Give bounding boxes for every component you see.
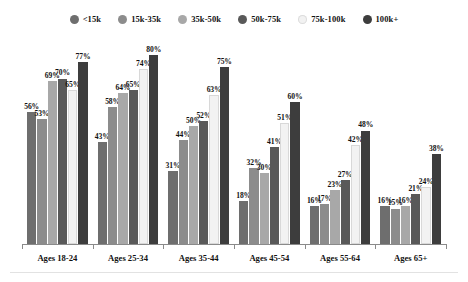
bar[interactable] <box>37 119 46 244</box>
bar[interactable] <box>179 140 188 244</box>
bar-slot: 50% <box>189 36 198 244</box>
legend-dot-icon <box>70 15 79 24</box>
plot-area: 56%53%69%70%65%77%43%58%64%65%74%80%31%4… <box>22 36 446 244</box>
bar-slot: 58% <box>108 36 117 244</box>
bar[interactable] <box>341 180 350 244</box>
legend-dot-icon <box>178 15 187 24</box>
bar[interactable] <box>168 171 177 244</box>
bar-value-label: 80% <box>146 46 161 54</box>
bar[interactable] <box>249 168 258 244</box>
bar[interactable] <box>391 209 400 244</box>
bar[interactable] <box>239 201 248 244</box>
axis-tick <box>446 244 447 249</box>
bar[interactable] <box>78 62 87 244</box>
legend-entry[interactable]: 35k-50k <box>178 15 221 24</box>
bar-slot: 18% <box>239 36 248 244</box>
bar-slot: 31% <box>168 36 177 244</box>
axis-tick <box>375 244 376 249</box>
bar-value-label: 38% <box>429 145 444 153</box>
axis-category-label: Ages 18-24 <box>22 250 93 266</box>
bar-slot: 69% <box>48 36 57 244</box>
bar[interactable] <box>129 90 138 244</box>
bar[interactable] <box>149 55 158 244</box>
bar-slot: 52% <box>199 36 208 244</box>
bar-group: 16%17%23%27%42%48% <box>305 36 376 244</box>
legend-label: <15k <box>83 15 101 24</box>
bar-slot: 63% <box>209 36 218 244</box>
bar[interactable] <box>280 123 289 244</box>
bar[interactable] <box>68 90 77 244</box>
bar[interactable] <box>108 107 117 244</box>
axis-tick <box>305 244 306 249</box>
axis-category-label: Ages 65+ <box>375 250 446 266</box>
bar-slot: 44% <box>179 36 188 244</box>
legend-label: 75k-100k <box>311 15 345 24</box>
axis-category-label: Ages 45-54 <box>234 250 305 266</box>
axis-category-label: Ages 35-44 <box>163 250 234 266</box>
bar-slot: 21% <box>411 36 420 244</box>
bar[interactable] <box>118 93 127 244</box>
legend-label: 50k-75k <box>251 15 281 24</box>
bar[interactable] <box>48 81 57 244</box>
legend-label: 35k-50k <box>191 15 221 24</box>
legend-entry[interactable]: <15k <box>70 15 101 24</box>
bar-groups: 56%53%69%70%65%77%43%58%64%65%74%80%31%4… <box>22 36 446 244</box>
bar[interactable] <box>290 102 299 244</box>
bar[interactable] <box>139 69 148 244</box>
bar[interactable] <box>361 131 370 244</box>
bar[interactable] <box>432 154 441 244</box>
bar[interactable] <box>27 112 36 244</box>
bar-slot: 77% <box>78 36 87 244</box>
bar[interactable] <box>320 204 329 244</box>
axis-category-label: Ages 55-64 <box>305 250 376 266</box>
bar[interactable] <box>330 190 339 244</box>
bar-slot: 80% <box>149 36 158 244</box>
bar[interactable] <box>189 126 198 244</box>
bar[interactable] <box>351 145 360 244</box>
bar-slot: 16% <box>380 36 389 244</box>
legend-entry[interactable]: 100k+ <box>363 15 399 24</box>
bar-value-label: 60% <box>288 93 303 101</box>
bar-slot: 16% <box>401 36 410 244</box>
legend-dot-icon <box>118 15 127 24</box>
bar[interactable] <box>220 67 229 244</box>
bar-slot: 48% <box>361 36 370 244</box>
bar[interactable] <box>98 142 107 244</box>
bar-slot: 42% <box>351 36 360 244</box>
legend-label: 15k-35k <box>131 15 161 24</box>
bar-slot: 16% <box>310 36 319 244</box>
bar-value-label: 48% <box>358 121 373 129</box>
bar-slot: 56% <box>27 36 36 244</box>
bar-group: 18%32%30%41%51%60% <box>234 36 305 244</box>
footer-divider <box>10 272 458 273</box>
bar-group: 43%58%64%65%74%80% <box>93 36 164 244</box>
bar-slot: 70% <box>58 36 67 244</box>
bar-slot: 53% <box>37 36 46 244</box>
axis-category-label: Ages 25-34 <box>93 250 164 266</box>
legend-entry[interactable]: 75k-100k <box>298 15 345 24</box>
legend-label: 100k+ <box>376 15 399 24</box>
grouped-bar-chart: <15k15k-35k35k-50k50k-75k75k-100k100k+ 5… <box>0 0 468 282</box>
bar-slot: 17% <box>320 36 329 244</box>
bar-slot: 75% <box>220 36 229 244</box>
bar[interactable] <box>58 79 67 244</box>
bar[interactable] <box>310 206 319 244</box>
bar-slot: 23% <box>330 36 339 244</box>
bar[interactable] <box>270 147 279 244</box>
bar-group: 31%44%50%52%63%75% <box>163 36 234 244</box>
bar-slot: 15% <box>391 36 400 244</box>
chart-legend: <15k15k-35k35k-50k50k-75k75k-100k100k+ <box>0 8 468 30</box>
bar[interactable] <box>260 173 269 244</box>
bar-slot: 32% <box>249 36 258 244</box>
legend-entry[interactable]: 50k-75k <box>238 15 281 24</box>
bar[interactable] <box>380 206 389 244</box>
axis-tick <box>163 244 164 249</box>
bar[interactable] <box>421 187 430 244</box>
bar[interactable] <box>199 121 208 244</box>
legend-dot-icon <box>363 15 372 24</box>
bar[interactable] <box>209 95 218 244</box>
bar[interactable] <box>401 206 410 244</box>
legend-entry[interactable]: 15k-35k <box>118 15 161 24</box>
bar[interactable] <box>411 194 420 244</box>
bar-slot: 41% <box>270 36 279 244</box>
